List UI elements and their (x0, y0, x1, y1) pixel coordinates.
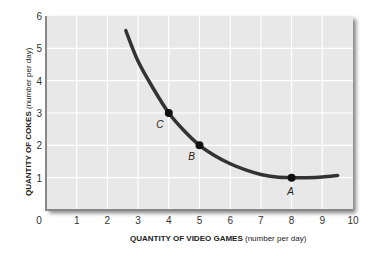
x-tick-label: 10 (347, 215, 359, 226)
x-tick-label: 8 (289, 215, 295, 226)
point-label-a: A (286, 186, 294, 197)
x-tick-label: 2 (105, 215, 111, 226)
y-axis-title: QUANTITY OF COKES (number per day) (24, 47, 33, 196)
x-tick-label: 6 (227, 215, 233, 226)
point-c (165, 109, 173, 117)
point-label-b: B (188, 151, 195, 162)
x-tick-label: 3 (135, 215, 141, 226)
x-tick-label: 1 (74, 215, 80, 226)
x-tick-labels: 012345678910 (36, 215, 359, 226)
x-tick-label: 5 (197, 215, 203, 226)
x-tick-label: 0 (36, 215, 42, 226)
y-tick-label: 6 (36, 11, 42, 22)
y-tick-label: 2 (36, 140, 42, 151)
point-a (288, 174, 296, 182)
y-tick-label: 5 (36, 43, 42, 54)
y-tick-labels: 123456 (36, 11, 42, 184)
point-b (196, 141, 204, 149)
y-tick-label: 3 (36, 108, 42, 119)
indifference-curve-chart: 012345678910 123456 CBA QUANTITY OF VIDE… (0, 0, 376, 256)
y-tick-label: 1 (36, 173, 42, 184)
point-label-c: C (156, 119, 164, 130)
x-tick-label: 7 (258, 215, 264, 226)
x-axis-title: QUANTITY OF VIDEO GAMES (number per day) (130, 234, 307, 243)
x-tick-label: 4 (166, 215, 172, 226)
x-tick-label: 9 (320, 215, 326, 226)
y-tick-label: 4 (36, 76, 42, 87)
